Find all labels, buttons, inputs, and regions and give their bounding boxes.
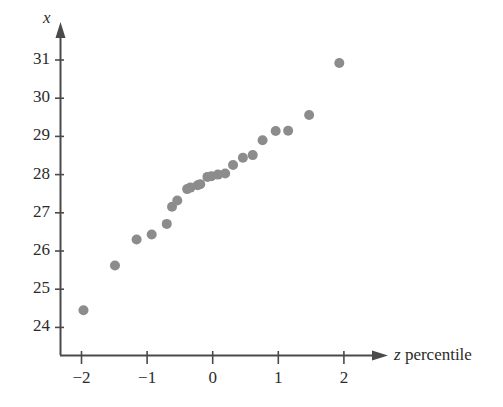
axis-lines	[56, 22, 389, 361]
scatter-point	[220, 168, 230, 178]
x-axis-title-symbol: z	[394, 345, 401, 364]
y-axis-title: x	[43, 8, 51, 28]
y-axis-tick-label: 24	[16, 316, 50, 336]
scatter-point	[334, 58, 344, 68]
x-axis-title-text: percentile	[401, 345, 472, 364]
y-axis-tick-label: 29	[16, 125, 50, 145]
x-axis-tick-marks	[82, 351, 344, 364]
scatter-point	[258, 135, 268, 145]
scatter-point	[162, 219, 172, 229]
y-axis-tick-label: 30	[16, 87, 50, 107]
y-axis-tick-label: 31	[16, 49, 50, 69]
scatter-data-points	[78, 58, 344, 315]
y-axis-tick-label: 27	[16, 202, 50, 222]
x-axis-tick-label: 2	[329, 368, 359, 388]
scatter-point	[172, 196, 182, 206]
y-axis-tick-label: 28	[16, 164, 50, 184]
y-axis-arrowhead	[56, 22, 66, 38]
scatter-point	[304, 110, 314, 120]
y-axis-tick-label: 25	[16, 278, 50, 298]
x-axis-title: z percentile	[394, 345, 472, 365]
scatter-point	[110, 261, 120, 271]
x-axis-tick-label: 1	[263, 368, 293, 388]
scatter-point	[228, 160, 238, 170]
x-axis-tick-label: −2	[67, 368, 97, 388]
x-axis-tick-label: 0	[198, 368, 228, 388]
y-axis-title-label: x	[43, 8, 51, 27]
scatter-point	[78, 305, 88, 315]
x-axis-arrowhead	[372, 351, 388, 361]
scatter-point	[147, 230, 157, 240]
scatter-point	[195, 179, 205, 189]
scatter-point	[283, 126, 293, 136]
x-axis-tick-label: −1	[132, 368, 162, 388]
scatter-point	[132, 235, 142, 245]
scatter-point	[248, 150, 258, 160]
y-axis-tick-label: 26	[16, 240, 50, 260]
scatter-point	[238, 153, 248, 163]
scatter-point	[271, 126, 281, 136]
normal-probability-plot-figure: 2425262728293031 −2−1012 x z percentile	[0, 0, 503, 407]
